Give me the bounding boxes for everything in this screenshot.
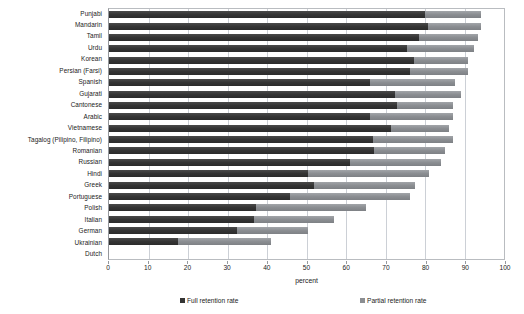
- bar-row[interactable]: [109, 179, 504, 190]
- bar-stack: [109, 159, 504, 166]
- bar-segment-partial-retention[interactable]: [425, 11, 481, 18]
- bar-segment-full-retention[interactable]: [109, 193, 290, 200]
- bar-segment-full-retention[interactable]: [109, 91, 395, 98]
- bar-stack: [109, 113, 504, 120]
- bar-segment-full-retention[interactable]: [109, 113, 370, 120]
- axis-tick-label: 60: [343, 264, 350, 271]
- bar-segment-full-retention[interactable]: [109, 102, 397, 109]
- bar-row[interactable]: [109, 168, 504, 179]
- bar-stack: [109, 11, 504, 18]
- axis-tick-label: 30: [223, 264, 230, 271]
- bar-stack: [109, 45, 504, 52]
- bar-segment-partial-retention[interactable]: [410, 68, 468, 75]
- category-label: Spanish: [0, 77, 106, 88]
- bar-row[interactable]: [109, 202, 504, 213]
- bar-row[interactable]: [109, 134, 504, 145]
- bar-segment-full-retention[interactable]: [109, 79, 370, 86]
- bar-segment-full-retention[interactable]: [109, 136, 373, 143]
- axis-tick-label: 10: [144, 264, 151, 271]
- category-label: Greek: [0, 180, 106, 191]
- bar-row[interactable]: [109, 213, 504, 224]
- value-axis: 0102030405060708090100: [108, 261, 505, 275]
- bar-segment-full-retention[interactable]: [109, 238, 178, 245]
- bar-segment-full-retention[interactable]: [109, 34, 419, 41]
- category-label: Portuguese: [0, 191, 106, 202]
- bar-segment-full-retention[interactable]: [109, 182, 314, 189]
- bar-segment-partial-retention[interactable]: [397, 102, 452, 109]
- bar-segment-full-retention[interactable]: [109, 23, 428, 30]
- bar-row[interactable]: [109, 225, 504, 236]
- bar-row[interactable]: [109, 100, 504, 111]
- bar-stack: [109, 170, 504, 177]
- category-label: Korean: [0, 54, 106, 65]
- bar-row[interactable]: [109, 66, 504, 77]
- bar-segment-partial-retention[interactable]: [395, 91, 460, 98]
- category-label: Tamil: [0, 31, 106, 42]
- category-label: German: [0, 226, 106, 237]
- x-axis-title: percent: [108, 277, 505, 284]
- legend-item-partial-retention-rate[interactable]: Partial retention rate: [360, 297, 426, 304]
- bar-stack: [109, 193, 504, 200]
- axis-tick-label: 40: [263, 264, 270, 271]
- bar-segment-full-retention[interactable]: [109, 170, 308, 177]
- bar-segment-full-retention[interactable]: [109, 68, 410, 75]
- bar-segment-partial-retention[interactable]: [237, 227, 308, 234]
- bar-row[interactable]: [109, 89, 504, 100]
- bar-segment-full-retention[interactable]: [109, 147, 374, 154]
- bar-segment-partial-retention[interactable]: [391, 125, 448, 132]
- bar-row[interactable]: [109, 43, 504, 54]
- bar-segment-partial-retention[interactable]: [290, 193, 410, 200]
- bar-stack: [109, 227, 504, 234]
- axis-tick-label: 100: [499, 264, 510, 271]
- bar-row[interactable]: [109, 191, 504, 202]
- bar-segment-full-retention[interactable]: [109, 227, 237, 234]
- bar-row[interactable]: [109, 111, 504, 122]
- bar-segment-full-retention[interactable]: [109, 159, 350, 166]
- bar-segment-full-retention[interactable]: [109, 125, 391, 132]
- bar-stack: [109, 23, 504, 30]
- bar-segment-full-retention[interactable]: [109, 11, 425, 18]
- bar-segment-partial-retention[interactable]: [254, 216, 334, 223]
- bar-segment-partial-retention[interactable]: [178, 238, 271, 245]
- legend-label-partial: Partial retention rate: [367, 297, 426, 304]
- bar-segment-partial-retention[interactable]: [419, 34, 478, 41]
- bar-segment-partial-retention[interactable]: [370, 79, 455, 86]
- bar-stack: [109, 34, 504, 41]
- bar-row[interactable]: [109, 32, 504, 43]
- bar-segment-partial-retention[interactable]: [308, 170, 428, 177]
- bar-segment-partial-retention[interactable]: [256, 204, 365, 211]
- bar-row[interactable]: [109, 77, 504, 88]
- bar-stack: [109, 57, 504, 64]
- bar-segment-partial-retention[interactable]: [374, 147, 445, 154]
- bar-segment-partial-retention[interactable]: [350, 159, 441, 166]
- bar-segment-full-retention[interactable]: [109, 45, 407, 52]
- bar-segment-full-retention[interactable]: [109, 216, 254, 223]
- bar-stack: [109, 79, 504, 86]
- axis-tick-label: 90: [462, 264, 469, 271]
- category-axis-labels: PunjabiMandarinTamilUrduKoreanPersian (F…: [0, 8, 106, 260]
- bar-row[interactable]: [109, 248, 504, 259]
- bar-segment-partial-retention[interactable]: [414, 57, 468, 64]
- bar-row[interactable]: [109, 157, 504, 168]
- bar-row[interactable]: [109, 236, 504, 247]
- legend-item-full-retention-rate[interactable]: Full retention rate: [180, 297, 238, 304]
- bar-segment-partial-retention[interactable]: [373, 136, 453, 143]
- bar-row[interactable]: [109, 145, 504, 156]
- bar-row[interactable]: [109, 123, 504, 134]
- category-label: Gujarati: [0, 88, 106, 99]
- axis-tick-label: 80: [422, 264, 429, 271]
- bar-segment-full-retention[interactable]: [109, 57, 414, 64]
- bar-row[interactable]: [109, 20, 504, 31]
- category-label: Tagalog (Pilipino, Filipino): [0, 134, 106, 145]
- axis-tick-label: 0: [106, 264, 110, 271]
- bar-row[interactable]: [109, 9, 504, 20]
- bar-segment-partial-retention[interactable]: [428, 23, 481, 30]
- category-label: Dutch: [0, 249, 106, 260]
- legend: Full retention rate Partial retention ra…: [108, 297, 505, 309]
- bar-segment-full-retention[interactable]: [109, 204, 256, 211]
- bar-segment-partial-retention[interactable]: [407, 45, 474, 52]
- bar-segment-partial-retention[interactable]: [370, 113, 453, 120]
- bar-row[interactable]: [109, 54, 504, 65]
- bar-segment-partial-retention[interactable]: [314, 182, 415, 189]
- bar-stack: [109, 147, 504, 154]
